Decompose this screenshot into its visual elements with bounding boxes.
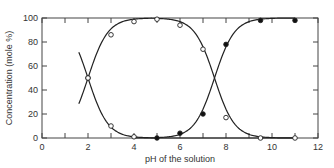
filled-circle-marker	[224, 42, 229, 47]
plot-frame	[42, 18, 318, 138]
filled-circle-marker	[258, 18, 263, 23]
open-circle-marker	[132, 19, 137, 24]
x-tick-label: 12	[313, 142, 323, 152]
curve-1	[79, 52, 157, 138]
y-tick-label: 40	[28, 85, 38, 95]
y-tick-label: 0	[33, 133, 38, 143]
y-tick-label: 80	[28, 37, 38, 47]
y-tick-label: 100	[23, 13, 38, 23]
filled-circle-marker	[201, 112, 206, 117]
chart: 024681012 020406080100 pH of the solutio…	[0, 0, 334, 168]
data-markers	[86, 17, 298, 140]
open-circle-marker	[201, 47, 206, 52]
filled-circle-marker	[155, 136, 160, 141]
x-tick-label: 8	[223, 142, 228, 152]
open-circle-marker	[132, 135, 137, 140]
open-circle-marker	[178, 23, 183, 28]
open-circle-marker	[293, 136, 298, 141]
x-tick-label: 0	[39, 142, 44, 152]
open-circle-marker	[86, 76, 91, 81]
open-circle-marker	[155, 17, 160, 22]
x-tick-labels: 024681012	[39, 142, 323, 152]
filled-circle-marker	[178, 131, 183, 136]
y-tick-label: 60	[28, 61, 38, 71]
y-tick-label: 20	[28, 109, 38, 119]
x-tick-label: 2	[85, 142, 90, 152]
x-tick-label: 10	[267, 142, 277, 152]
y-axis-label: Concentration (mole %)	[4, 31, 14, 126]
open-circle-marker	[109, 33, 114, 38]
open-circle-marker	[224, 115, 229, 120]
x-tick-label: 6	[177, 142, 182, 152]
y-tick-labels: 020406080100	[23, 13, 38, 143]
axis-ticks	[42, 18, 318, 138]
open-circle-marker	[109, 124, 114, 129]
filled-circle-marker	[293, 18, 298, 23]
open-circle-marker	[258, 136, 263, 141]
x-axis-label: pH of the solution	[145, 154, 215, 164]
x-tick-label: 4	[131, 142, 136, 152]
